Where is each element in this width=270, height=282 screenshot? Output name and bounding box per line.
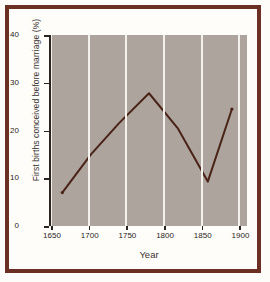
x-axis-tick [202, 226, 204, 230]
x-axis-tick [51, 226, 53, 230]
x-axis-tick [239, 226, 241, 230]
y-axis-tick-label: 0 [15, 222, 19, 230]
x-axis-tick [126, 226, 128, 230]
x-axis-tick [89, 226, 91, 230]
x-axis-tick-label: 1750 [118, 231, 136, 240]
chart-figure: First births conceived before marriage (… [9, 9, 257, 269]
y-axis-tick [44, 226, 49, 228]
x-axis-tick-label: 1700 [81, 231, 99, 240]
y-axis-tick-label: 40 [10, 31, 19, 39]
y-axis-tick [44, 131, 49, 133]
y-axis-tick [44, 35, 49, 37]
x-axis-tick-label: 1900 [232, 231, 250, 240]
y-axis-tick [44, 178, 49, 180]
y-axis-tick-label: 10 [10, 174, 19, 182]
x-axis-tick [164, 226, 166, 230]
y-axis-tick-label: 20 [10, 127, 19, 135]
x-axis-ticks: 165017001750180018501900 [9, 9, 257, 269]
x-axis-tick-label: 1650 [43, 231, 61, 240]
x-axis-title: Year [49, 249, 249, 260]
y-axis-tick-label: 30 [10, 79, 19, 87]
x-axis-tick-label: 1800 [156, 231, 174, 240]
x-axis-tick-label: 1850 [194, 231, 212, 240]
figure-frame: First births conceived before marriage (… [5, 5, 261, 273]
y-axis-tick [44, 83, 49, 85]
